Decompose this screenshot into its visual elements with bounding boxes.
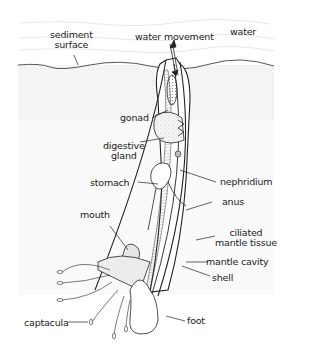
label-ciliated-mantle-tissue: ciliated mantle tissue bbox=[215, 228, 277, 248]
label-stomach: stomach bbox=[90, 178, 129, 188]
label-water-movement: water movement bbox=[135, 32, 214, 42]
label-mantle-cavity: mantle cavity bbox=[206, 257, 268, 267]
label-sediment-surface: sediment surface bbox=[50, 30, 93, 50]
label-mouth: mouth bbox=[80, 210, 110, 220]
nephridium bbox=[175, 151, 181, 157]
label-shell: shell bbox=[212, 273, 233, 283]
label-digestive-gland: digestive gland bbox=[103, 141, 145, 161]
label-captacula: captacula bbox=[24, 318, 69, 328]
digestive-gland bbox=[154, 112, 184, 143]
label-nephridium: nephridium bbox=[220, 177, 272, 187]
label-foot: foot bbox=[187, 316, 205, 326]
label-water: water bbox=[230, 27, 256, 37]
label-gland: gland bbox=[103, 151, 145, 161]
label-mantle-tissue: mantle tissue bbox=[215, 238, 277, 248]
label-gonad: gonad bbox=[120, 113, 149, 123]
gonad bbox=[167, 75, 177, 105]
label-anus: anus bbox=[222, 197, 244, 207]
label-surface: surface bbox=[50, 40, 93, 50]
